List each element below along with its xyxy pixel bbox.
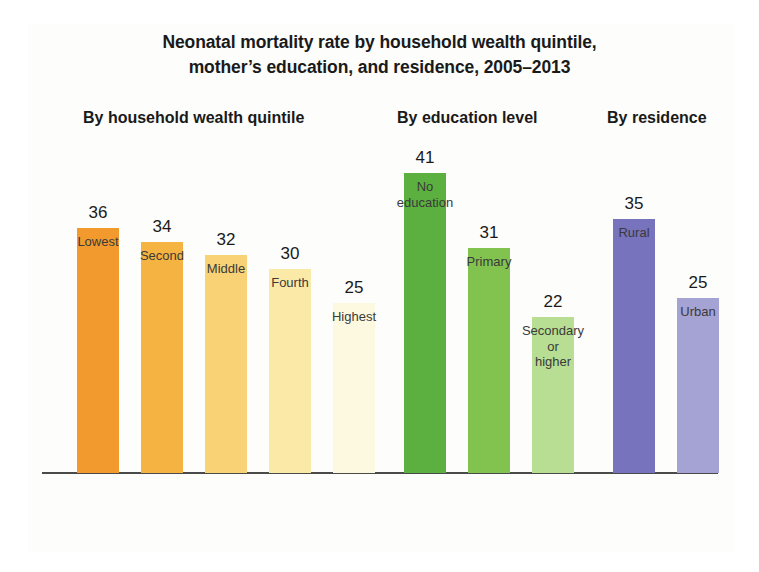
bar-category-label: Rural: [587, 225, 681, 241]
bar-group-item[interactable]: 22Secondaryorhigher: [532, 317, 574, 473]
bar-value-label: 25: [319, 278, 389, 298]
bar[interactable]: [141, 242, 183, 473]
bar-group-item[interactable]: 41Noeducation: [404, 173, 446, 473]
bar-group-item[interactable]: 25Urban: [677, 298, 719, 473]
bar-category-label: Noeducation: [378, 179, 472, 210]
bar[interactable]: [205, 255, 247, 473]
bar-group-item[interactable]: 25Highest: [333, 303, 375, 473]
bar-category-label: Primary: [442, 254, 536, 270]
bar-category-label-line: Primary: [442, 254, 536, 270]
bar-value-label: 25: [663, 273, 733, 293]
bar-group-item[interactable]: 36Lowest: [77, 228, 119, 473]
bar-category-label-line: higher: [506, 354, 600, 370]
bar-value-label: 35: [599, 194, 669, 214]
bar-category-label-line: Urban: [651, 304, 745, 320]
bar-value-label: 34: [127, 217, 197, 237]
bar-group-item[interactable]: 31Primary: [468, 248, 510, 473]
bar-category-label: Urban: [651, 304, 745, 320]
bar-value-label: 41: [390, 148, 460, 168]
bar-group-item[interactable]: 30Fourth: [269, 269, 311, 473]
plot-area: 36Lowest34Second32Middle30Fourth25Highes…: [0, 0, 759, 572]
bar-category-label-line: Rural: [587, 225, 681, 241]
bar-group-item[interactable]: 35Rural: [613, 219, 655, 473]
bar-value-label: 30: [255, 244, 325, 264]
bar[interactable]: [677, 298, 719, 473]
bar-group-item[interactable]: 34Second: [141, 242, 183, 473]
bar-category-label-line: No: [378, 179, 472, 195]
bar-category-label: Secondaryorhigher: [506, 323, 600, 370]
bar[interactable]: [269, 269, 311, 473]
bar-category-label: Highest: [307, 309, 401, 325]
bar-value-label: 32: [191, 230, 261, 250]
bar-value-label: 36: [63, 203, 133, 223]
bar-group-item[interactable]: 32Middle: [205, 255, 247, 473]
bar-value-label: 31: [454, 223, 524, 243]
bar[interactable]: [613, 219, 655, 473]
bar-category-label-line: Secondary: [506, 323, 600, 339]
bar[interactable]: [468, 248, 510, 473]
bar-category-label-line: education: [378, 195, 472, 211]
chart-page: Neonatal mortality rate by household wea…: [0, 0, 759, 572]
bar[interactable]: [404, 173, 446, 473]
bar-category-label-line: Highest: [307, 309, 401, 325]
bar[interactable]: [77, 228, 119, 473]
bar[interactable]: [333, 303, 375, 473]
bar-category-label-line: or: [506, 339, 600, 355]
bar-value-label: 22: [518, 292, 588, 312]
